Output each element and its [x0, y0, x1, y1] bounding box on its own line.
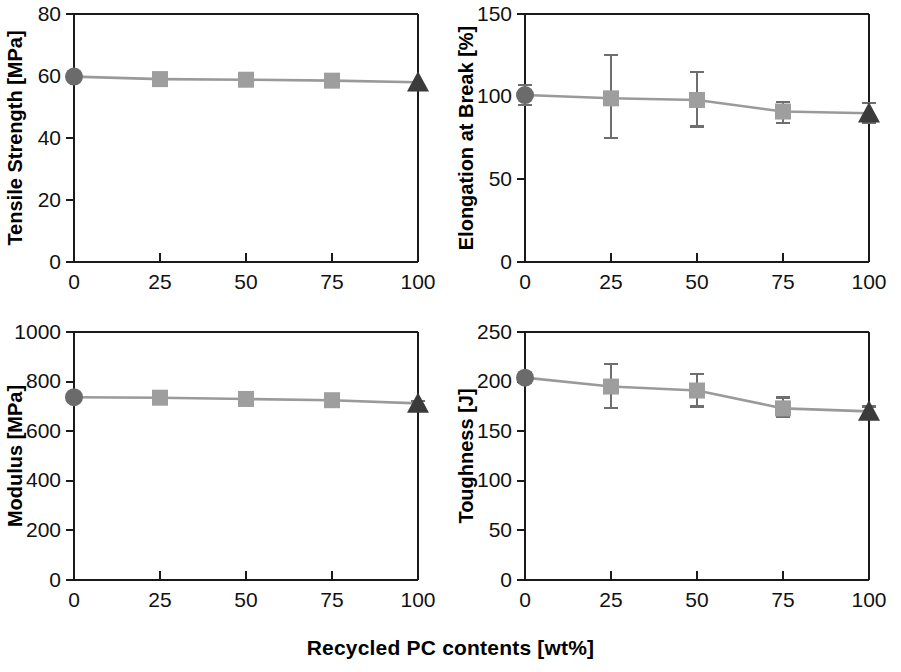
y-tick-label: 200 [477, 369, 512, 392]
x-tick-label: 25 [599, 588, 622, 611]
data-point-square [152, 390, 168, 406]
y-tick-label: 200 [26, 518, 61, 541]
data-point-square [324, 392, 340, 408]
data-point-square [603, 379, 619, 395]
y-tick-label: 400 [26, 468, 61, 491]
panel-modulus: 020040060080010000255075100Modulus [MPa] [0, 318, 450, 638]
x-tick-label: 0 [519, 270, 531, 293]
y-tick-label: 0 [500, 568, 512, 591]
y-tick-label: 50 [489, 518, 512, 541]
x-tick-label: 0 [68, 588, 80, 611]
x-tick-label: 0 [519, 588, 531, 611]
panel-grid: 0204060800255075100Tensile Strength [MPa… [0, 0, 901, 640]
x-tick-label: 0 [68, 270, 80, 293]
shared-x-axis-label: Recycled PC contents [wt%] [0, 636, 901, 660]
data-point-square [238, 72, 254, 88]
y-tick-label: 800 [26, 369, 61, 392]
x-tick-label: 100 [851, 588, 886, 611]
y-tick-label: 50 [489, 167, 512, 190]
x-tick-label: 25 [148, 270, 171, 293]
axis-frame [525, 332, 869, 580]
data-point-circle [65, 388, 83, 406]
x-tick-label: 25 [148, 588, 171, 611]
data-point-square [775, 104, 791, 120]
chart-svg: 0501001502002500255075100Toughness [J] [451, 318, 901, 638]
data-point-square [152, 71, 168, 87]
x-tick-label: 100 [851, 270, 886, 293]
y-tick-label: 0 [49, 250, 61, 273]
y-tick-label: 600 [26, 419, 61, 442]
y-tick-label: 150 [477, 419, 512, 442]
x-tick-label: 50 [234, 270, 257, 293]
data-point-circle [65, 68, 83, 86]
x-tick-label: 25 [599, 270, 622, 293]
data-point-square [689, 383, 705, 399]
x-tick-label: 75 [320, 270, 343, 293]
y-tick-label: 80 [38, 2, 61, 25]
y-tick-label: 40 [38, 126, 61, 149]
x-tick-label: 50 [685, 588, 708, 611]
y-tick-label: 60 [38, 64, 61, 87]
x-tick-label: 75 [771, 588, 794, 611]
axis-frame [525, 14, 869, 262]
x-tick-label: 75 [320, 588, 343, 611]
data-point-square [238, 391, 254, 407]
figure-four-panel-mechanical-properties: 0204060800255075100Tensile Strength [MPa… [0, 0, 901, 672]
x-tick-label: 100 [400, 588, 435, 611]
data-point-square [324, 73, 340, 89]
panel-tensile-strength: 0204060800255075100Tensile Strength [MPa… [0, 0, 450, 320]
chart-svg: 020040060080010000255075100Modulus [MPa] [0, 318, 450, 638]
x-tick-label: 50 [234, 588, 257, 611]
y-tick-label: 0 [500, 250, 512, 273]
y-axis-title: Elongation at Break [%] [455, 26, 477, 250]
x-tick-label: 100 [400, 270, 435, 293]
data-point-circle [516, 86, 534, 104]
data-point-square [689, 92, 705, 108]
axis-frame [74, 14, 418, 262]
axis-frame [74, 332, 418, 580]
y-axis-title: Tensile Strength [MPa] [4, 30, 26, 245]
y-axis-title: Modulus [MPa] [4, 385, 26, 527]
y-tick-label: 150 [477, 2, 512, 25]
x-tick-label: 50 [685, 270, 708, 293]
y-tick-label: 0 [49, 568, 61, 591]
y-tick-label: 250 [477, 320, 512, 343]
chart-svg: 0204060800255075100Tensile Strength [MPa… [0, 0, 450, 320]
y-tick-label: 100 [477, 468, 512, 491]
y-axis-title: Toughness [J] [455, 388, 477, 523]
y-tick-label: 100 [477, 84, 512, 107]
data-point-square [775, 400, 791, 416]
y-tick-label: 1000 [14, 320, 61, 343]
panel-elongation-at-break: 0501001500255075100Elongation at Break [… [451, 0, 901, 320]
panel-toughness: 0501001502002500255075100Toughness [J] [451, 318, 901, 638]
y-tick-label: 20 [38, 188, 61, 211]
data-point-circle [516, 369, 534, 387]
data-point-square [603, 90, 619, 106]
chart-svg: 0501001500255075100Elongation at Break [… [451, 0, 901, 320]
x-tick-label: 75 [771, 270, 794, 293]
